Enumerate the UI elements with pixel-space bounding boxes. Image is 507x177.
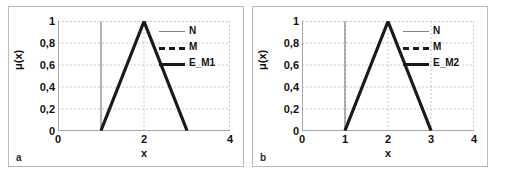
- chart-panel-b: μ(x) 0 0,2 0,4 0,6 0,8 1: [252, 6, 488, 167]
- y-tick-label: 1: [293, 16, 299, 27]
- y-tick-label: 0,4: [40, 82, 55, 93]
- y-tick-label: 0,2: [284, 104, 299, 115]
- y-tick-label: 1: [49, 16, 55, 27]
- legend-line-icon-E_M1: [159, 57, 185, 69]
- legend-line-icon-N: [159, 25, 185, 37]
- subfigure-label-b: b: [260, 153, 266, 163]
- subfigure-label-a: a: [16, 153, 22, 163]
- y-tick-label: 0,8: [40, 38, 55, 49]
- y-tick-label: 0,8: [284, 38, 299, 49]
- legend-item-N: N: [159, 23, 241, 39]
- legend-label: M: [189, 42, 197, 52]
- legend-item-E_M1: E_M1: [159, 55, 241, 71]
- x-tick-label: 0: [299, 134, 305, 145]
- x-tick-label: 1: [342, 134, 348, 145]
- legend-label: M: [433, 42, 441, 52]
- legend-item-M: M: [159, 39, 241, 55]
- y-tick-label: 0,2: [40, 104, 55, 115]
- y-tick-label: 0,4: [284, 82, 299, 93]
- panel-a-inner: μ(x) 0 0,2 0,4 0,6 0,8 1: [9, 7, 243, 166]
- legend-label: N: [189, 26, 196, 36]
- legend-item-N: N: [403, 23, 485, 39]
- x-axis-title-b: x: [302, 148, 474, 159]
- panel-b-inner: μ(x) 0 0,2 0,4 0,6 0,8 1: [253, 7, 487, 166]
- x-tick-label: 2: [385, 134, 391, 145]
- x-tick-labels-b: 0 1 2 3 4: [302, 134, 474, 148]
- x-axis-title-a: x: [58, 148, 230, 159]
- legend-line-icon-M: [403, 41, 429, 53]
- x-tick-label: 3: [428, 134, 434, 145]
- legend-item-M: M: [403, 39, 485, 55]
- y-tick-labels-b: 0 0,2 0,4 0,6 0,8 1: [267, 21, 299, 131]
- x-tick-label: 4: [227, 134, 233, 145]
- y-tick-label: 0,6: [40, 60, 55, 71]
- figure-container: μ(x) 0 0,2 0,4 0,6 0,8 1: [0, 0, 507, 177]
- legend-label: E_M2: [433, 58, 459, 68]
- x-tick-label: 0: [55, 134, 61, 145]
- legend-line-icon-E_M2: [403, 57, 429, 69]
- legend-item-E_M2: E_M2: [403, 55, 485, 71]
- chart-panel-a: μ(x) 0 0,2 0,4 0,6 0,8 1: [8, 6, 244, 167]
- legend-label: N: [433, 26, 440, 36]
- x-tick-label: 4: [471, 134, 477, 145]
- legend-label: E_M1: [189, 58, 215, 68]
- x-tick-labels-a: 0 2 4: [58, 134, 230, 148]
- legend-line-icon-N: [403, 25, 429, 37]
- legend-a: N M E_M1: [159, 23, 241, 71]
- legend-line-icon-M: [159, 41, 185, 53]
- legend-b: N M E_M2: [403, 23, 485, 71]
- y-tick-label: 0,6: [284, 60, 299, 71]
- y-tick-labels-a: 0 0,2 0,4 0,6 0,8 1: [23, 21, 55, 131]
- x-tick-label: 2: [141, 134, 147, 145]
